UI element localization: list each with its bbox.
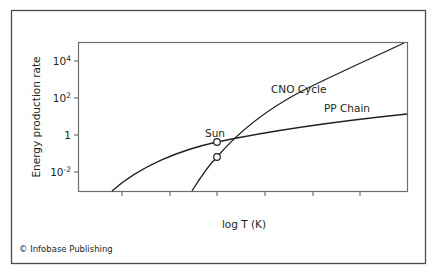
figure: 104 102 1 10-2 Energy production rate lo… — [0, 0, 437, 273]
sun-marker-pp — [214, 139, 221, 146]
sun-marker-cno — [214, 154, 221, 161]
sun-label: Sun — [205, 127, 225, 139]
credit-text: © Infobase Publishing — [19, 244, 113, 254]
y-tick-label-1: 1 — [64, 129, 71, 141]
cno-cycle-label: CNO Cycle — [271, 83, 326, 95]
pp-chain-label: PP Chain — [324, 102, 370, 114]
y-axis-label: Energy production rate — [30, 56, 42, 177]
x-axis-label: log T (K) — [222, 218, 266, 230]
